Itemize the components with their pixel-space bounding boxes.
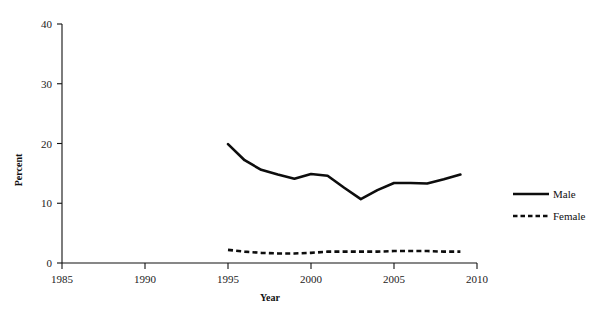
line-chart: 010203040 198519901995200020052010 Perce… <box>0 0 608 315</box>
y-tick-label: 20 <box>41 138 53 150</box>
y-tick-label: 40 <box>41 18 53 30</box>
chart-background <box>0 0 608 315</box>
x-tick-label: 2000 <box>300 273 323 285</box>
y-tick-label: 0 <box>47 257 53 269</box>
x-tick-label: 1990 <box>134 273 157 285</box>
y-tick-label: 30 <box>41 78 53 90</box>
legend-label-male: Male <box>553 188 576 200</box>
y-axis-title: Percent <box>13 153 24 186</box>
x-axis-title: Year <box>260 292 281 303</box>
x-tick-label: 2005 <box>383 273 406 285</box>
legend-label-female: Female <box>553 210 585 222</box>
x-tick-label: 1985 <box>51 273 74 285</box>
chart-figure: 010203040 198519901995200020052010 Perce… <box>0 0 608 315</box>
x-tick-label: 2010 <box>466 273 489 285</box>
x-tick-label: 1995 <box>217 273 240 285</box>
y-tick-label: 10 <box>41 197 53 209</box>
